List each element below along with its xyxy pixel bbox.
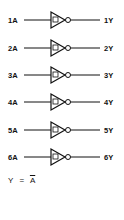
output-label: 2Y xyxy=(104,44,114,53)
inverter-row-2: 2A 2Y xyxy=(0,38,124,58)
equation-equals: = xyxy=(19,176,24,185)
inverter-row-1: 1A 1Y xyxy=(0,10,124,30)
equation-lhs: Y xyxy=(8,176,13,185)
output-label: 4Y xyxy=(104,98,114,107)
inverter-row-5: 5A 5Y xyxy=(0,120,124,140)
logic-equation: Y = A xyxy=(8,176,35,185)
output-label: 3Y xyxy=(104,71,114,80)
inverter-row-3: 3A 3Y xyxy=(0,65,124,85)
inverter-row-4: 4A 4Y xyxy=(0,92,124,112)
output-label: 5Y xyxy=(104,126,114,135)
output-label: 6Y xyxy=(104,153,114,162)
output-label: 1Y xyxy=(104,16,114,25)
equation-rhs-negated: A xyxy=(30,176,35,185)
inverter-row-6: 6A 6Y xyxy=(0,147,124,167)
